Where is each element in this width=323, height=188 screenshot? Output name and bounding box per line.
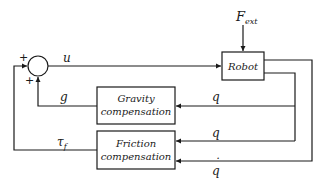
qdot-accent: ˙ xyxy=(214,157,220,171)
g-label: g xyxy=(60,90,68,104)
tau-label: τf xyxy=(57,135,69,151)
q-friction-label: q xyxy=(212,126,220,140)
fext-sub: ext xyxy=(245,17,258,26)
q-feedback-line xyxy=(264,73,295,141)
plus-sign-top: + xyxy=(19,51,28,64)
u-label: u xyxy=(63,51,71,65)
gravity-label-line2: compensation xyxy=(101,106,172,117)
plus-sign-bottom: + xyxy=(25,74,34,87)
block-diagram: + + u Fext g q q q ˙ τf Robot Gravity co… xyxy=(0,0,323,188)
summing-junction xyxy=(28,56,48,76)
friction-label-line1: Friction xyxy=(115,138,156,149)
friction-label-line2: compensation xyxy=(101,151,172,162)
gravity-label-line1: Gravity xyxy=(117,93,155,104)
q-gravity-label: q xyxy=(212,90,220,104)
fext-label: Fext xyxy=(235,9,258,26)
robot-label: Robot xyxy=(227,61,259,72)
friction-compensation-block xyxy=(97,131,175,169)
